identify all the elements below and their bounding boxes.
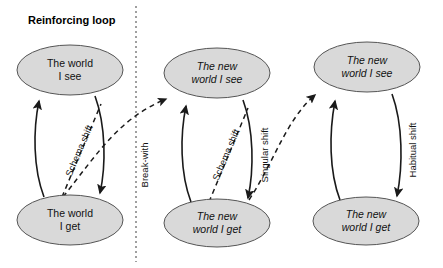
node-mid-new-world-i-get: The new world I get <box>164 199 270 247</box>
node-label-line1: The world <box>47 207 93 219</box>
edge-left-see-to-get <box>95 96 104 193</box>
node-label-line1: The new <box>197 60 239 72</box>
node-mid-new-world-i-see: The new world I see <box>164 48 270 98</box>
edge-right-get-to-see <box>331 101 340 200</box>
node-label-line2: world I get <box>193 223 243 235</box>
edge-label-singular-shift: Singular shift <box>259 127 270 182</box>
node-left-world-i-get: The world I get <box>17 195 123 245</box>
edge-label-break-with: Break-with <box>139 143 150 188</box>
reinforcing-loop-diagram: Reinforcing loop The world I see <box>0 0 443 268</box>
node-label-line2: world I get <box>342 221 392 233</box>
node-label-line1: The world <box>47 57 93 69</box>
node-label-line2: I see <box>59 70 82 82</box>
node-label-line1: The new <box>347 54 389 66</box>
edge-left-get-to-see <box>35 101 44 197</box>
diagram-canvas: Reinforcing loop The world I see <box>0 0 443 268</box>
node-right-new-world-i-get: The new world I get <box>313 197 419 245</box>
node-label-line2: I get <box>60 220 81 232</box>
edge-right-see-to-get <box>392 94 401 196</box>
edge-label-mid-schema-shift: Schema shift <box>210 127 242 182</box>
node-right-new-world-i-see: The new world I see <box>314 42 420 92</box>
node-label-line2: world I see <box>192 73 243 85</box>
edge-mid-get-to-see <box>182 106 191 202</box>
edge-mid-see-to-get <box>243 100 252 198</box>
node-left-world-i-see: The world I see <box>17 45 123 95</box>
page-title: Reinforcing loop <box>28 14 116 26</box>
edge-label-habitual-shift: Habitual shift <box>407 122 418 177</box>
node-label-line1: The new <box>346 208 388 220</box>
node-label-line2: world I see <box>342 67 393 79</box>
node-label-line1: The new <box>197 210 239 222</box>
edge-label-left-schema-shift: Schema shift <box>63 123 95 178</box>
